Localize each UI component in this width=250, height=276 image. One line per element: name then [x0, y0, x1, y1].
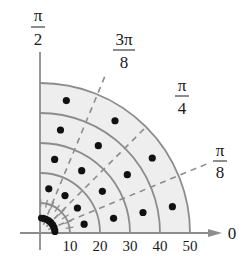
angle-label-pi-over-2-denominator: 2	[34, 30, 43, 49]
data-point	[51, 156, 58, 163]
angle-label-3pi-over-8-denominator: 8	[120, 53, 129, 72]
data-point	[111, 117, 118, 124]
data-point	[78, 167, 85, 174]
angle-label-pi-over-2-numerator: π	[34, 6, 43, 25]
polar-diagram: 10 20 30 40 50 0 π 8 π 4 3π 8 π 2	[0, 0, 250, 276]
radial-label-30: 30	[123, 238, 138, 254]
data-point	[139, 209, 146, 216]
angle-label-pi-over-8-numerator: π	[216, 141, 225, 160]
radial-label-20: 20	[93, 238, 108, 254]
data-point	[95, 142, 102, 149]
data-point	[63, 97, 70, 104]
data-point	[81, 221, 88, 228]
arrow-head-icon	[208, 229, 222, 237]
cluster-point	[38, 215, 45, 222]
data-point	[74, 204, 81, 211]
data-point	[45, 185, 52, 192]
data-point	[124, 171, 131, 178]
data-point	[61, 192, 68, 199]
radial-label-50: 50	[183, 238, 198, 254]
data-point	[57, 126, 64, 133]
data-point	[110, 215, 117, 222]
data-point	[99, 188, 106, 195]
angle-label-zero: 0	[228, 224, 237, 243]
angle-label-pi-over-4-numerator: π	[178, 76, 187, 95]
angle-label-pi-over-4-denominator: 4	[178, 99, 187, 118]
angle-label-pi-over-8-denominator: 8	[216, 163, 225, 182]
data-point	[169, 203, 176, 210]
radial-label-40: 40	[153, 238, 168, 254]
angle-label-3pi-over-8-numerator: 3π	[115, 30, 133, 49]
data-point	[149, 154, 156, 161]
radial-label-10: 10	[63, 238, 78, 254]
